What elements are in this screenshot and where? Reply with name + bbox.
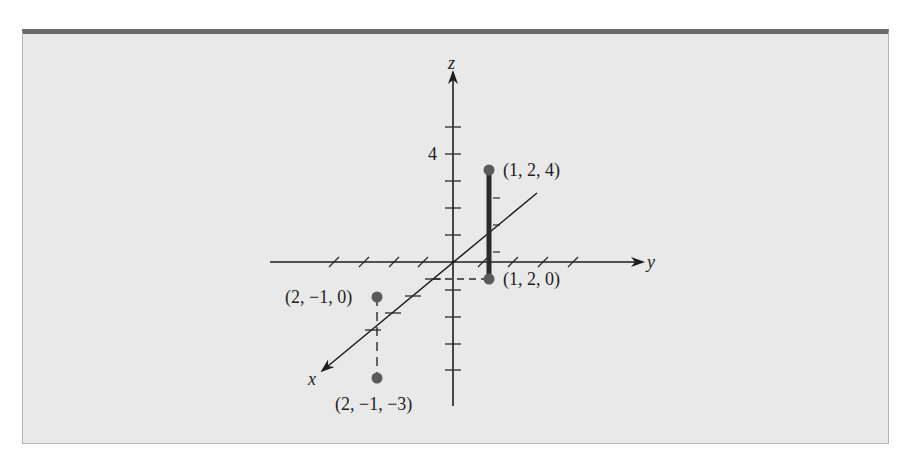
- point-label-2-neg1-0: (2, −1, 0): [285, 288, 352, 306]
- y-axis-label: y: [647, 253, 655, 271]
- z-axis: [445, 72, 461, 406]
- point-label-2-neg1-neg3: (2, −1, −3): [335, 395, 412, 413]
- point-2-neg1-0: [372, 292, 383, 303]
- y-axis: [270, 257, 643, 267]
- x-axis-label: x: [308, 370, 316, 388]
- 3d-coordinate-plot: [0, 0, 912, 464]
- point-1-2-4: [484, 165, 495, 176]
- point-label-1-2-0: (1, 2, 0): [503, 270, 560, 288]
- bar-ticks: [493, 198, 500, 252]
- point-1-2-0: [484, 274, 495, 285]
- point-2-neg1-neg3: [372, 373, 383, 384]
- z-tick-label: 4: [428, 145, 437, 163]
- z-axis-label: z: [448, 54, 455, 72]
- points: [372, 165, 495, 384]
- point-label-1-2-4: (1, 2, 4): [503, 161, 560, 179]
- guide-lines: [377, 198, 500, 378]
